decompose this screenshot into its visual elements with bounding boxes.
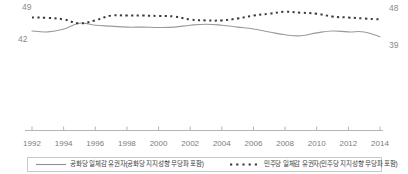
x-axis-tick-labels: 1992199419961998200020022004200620082010…: [0, 140, 408, 154]
legend-swatch-solid-line: [36, 161, 66, 168]
x-axis-tick-2012: 2012: [339, 140, 357, 148]
x-axis-tick-2014: 2014: [371, 140, 389, 148]
x-axis-tick-1998: 1998: [118, 140, 136, 148]
endpoint-label-democrat-end: 48: [389, 4, 398, 13]
legend-label-republican: 공화당 일체감 유권자(공화당 지지성향 무당파 포함): [70, 161, 204, 168]
endpoint-label-democrat-start: 49: [22, 3, 31, 12]
legend: 공화당 일체감 유권자(공화당 지지성향 무당파 포함) 민주당 일체감 유권자…: [27, 157, 382, 172]
line-chart: 49 42 48 39 1992199419961998200020022004…: [0, 0, 408, 174]
endpoint-label-republican-start: 42: [18, 35, 27, 44]
legend-item-democrat[interactable]: 민주당 일체감 유권자(민주당 지지성향 무당파 포함): [230, 161, 398, 168]
x-axis-tick-2010: 2010: [308, 140, 326, 148]
x-axis-tickmarks: [32, 127, 380, 131]
x-axis-tick-2006: 2006: [245, 140, 263, 148]
plot-svg: [0, 0, 408, 132]
x-axis-tick-1996: 1996: [86, 140, 104, 148]
endpoint-label-republican-end: 39: [389, 41, 398, 50]
series-line-republican: [32, 23, 380, 37]
x-axis: [0, 126, 408, 140]
x-axis-tick-2000: 2000: [150, 140, 168, 148]
x-axis-tick-2008: 2008: [276, 140, 294, 148]
legend-label-democrat: 민주당 일체감 유권자(민주당 지지성향 무당파 포함): [264, 161, 398, 168]
legend-item-republican[interactable]: 공화당 일체감 유권자(공화당 지지성향 무당파 포함): [36, 161, 204, 168]
plot-area: [0, 0, 408, 132]
x-axis-tick-2004: 2004: [213, 140, 231, 148]
x-axis-svg: [0, 126, 408, 140]
series-line-democrat: [32, 12, 380, 24]
legend-swatch-dotted-line: [230, 161, 260, 168]
x-axis-tick-1992: 1992: [23, 140, 41, 148]
x-axis-tick-2002: 2002: [181, 140, 199, 148]
x-axis-tick-1994: 1994: [55, 140, 73, 148]
